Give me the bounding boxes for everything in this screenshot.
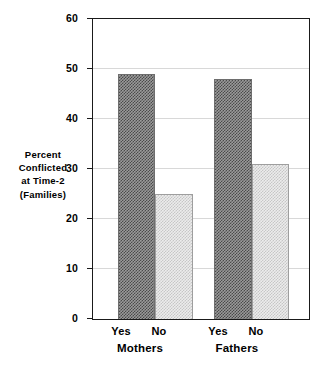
x-tick-label-fathers-yes: Yes <box>198 325 238 337</box>
y-tick-30: 30 <box>87 168 93 170</box>
y-tick-label-50: 50 <box>66 62 78 74</box>
y-tick-label-60: 60 <box>66 12 78 24</box>
y-tick-50: 50 <box>87 68 93 70</box>
x-tick-label-mothers-yes: Yes <box>101 325 141 337</box>
y-tick-label-0: 0 <box>72 312 78 324</box>
y-axis-label-line-3: at Time-2 <box>6 174 80 187</box>
y-tick-20: 20 <box>87 218 93 220</box>
group-label-fathers: Fathers <box>197 342 277 354</box>
y-tick-60: 60 <box>87 18 93 20</box>
y-axis-label-line-4: (Families) <box>6 188 80 201</box>
gridline-50 <box>93 68 309 69</box>
bar-mothers-yes <box>118 74 156 319</box>
group-label-mothers: Mothers <box>100 342 180 354</box>
bar-fathers-no <box>252 164 290 319</box>
y-tick-label-10: 10 <box>66 262 78 274</box>
y-tick-40: 40 <box>87 118 93 120</box>
bar-fathers-yes <box>214 79 252 319</box>
bar-chart-figure: Percent Conflicted at Time-2 (Families) … <box>0 0 336 372</box>
y-axis-label-line-1: Percent <box>6 148 80 161</box>
y-tick-label-40: 40 <box>66 112 78 124</box>
y-tick-label-30: 30 <box>66 162 78 174</box>
x-tick-label-mothers-no: No <box>139 325 179 337</box>
bar-mothers-no <box>155 194 193 319</box>
y-axis-label: Percent Conflicted at Time-2 (Families) <box>6 148 80 201</box>
y-tick-label-20: 20 <box>66 212 78 224</box>
x-tick-label-fathers-no: No <box>236 325 276 337</box>
y-tick-0: 0 <box>87 318 93 320</box>
y-tick-10: 10 <box>87 268 93 270</box>
plot-inner: 0 10 20 30 40 50 60 <box>93 19 309 319</box>
plot-area: 0 10 20 30 40 50 60 <box>92 18 310 320</box>
